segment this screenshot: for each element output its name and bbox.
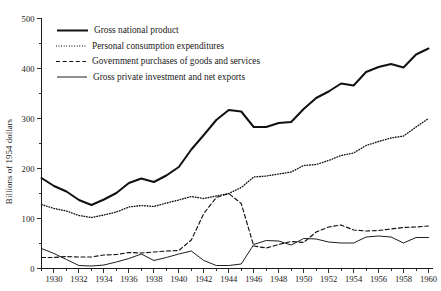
x-tick-label: 1940	[170, 274, 187, 284]
x-tick-label: 1954	[345, 274, 363, 284]
legend-label-text: Gross private investment and net exports	[93, 72, 245, 82]
legend-entry: Gross private investment and net exports	[57, 72, 245, 82]
series-line-personal-consumption-expenditures	[42, 119, 429, 218]
legend-entry: Government purchases of goods and servic…	[56, 56, 260, 66]
x-tick-label: 1946	[245, 274, 263, 284]
legend-label-text: Gross national product	[94, 25, 179, 35]
y-tick-label: 100	[22, 214, 35, 224]
x-tick-label: 1942	[195, 274, 212, 284]
chart-legend: Gross national productPersonal consumpti…	[56, 25, 260, 82]
legend-entry: Gross national product	[57, 25, 179, 35]
y-tick-label: 200	[22, 164, 35, 174]
y-tick-label: 400	[22, 64, 35, 74]
x-axis-tick-labels: 1930193219341936193819401942194419461948…	[45, 274, 437, 284]
x-tick-label: 1932	[70, 274, 87, 284]
legend-label-text: Personal consumption expenditures	[92, 41, 225, 51]
x-tick-label: 1952	[320, 274, 337, 284]
x-tick-label: 1938	[145, 274, 162, 284]
y-axis-title: Billions of 1954 dollars	[4, 118, 14, 204]
economic-indicators-line-chart: 1930193219341936193819401942194419461948…	[0, 0, 441, 291]
y-axis-title-text: Billions of 1954 dollars	[4, 118, 14, 204]
y-axis-tick-labels: 0100200300400500	[22, 14, 35, 274]
x-tick-label: 1956	[370, 274, 388, 284]
legend-label-text: Government purchases of goods and servic…	[92, 56, 260, 66]
series-line-government-purchases	[42, 194, 429, 258]
y-tick-label: 0	[30, 264, 34, 274]
x-tick-label: 1930	[45, 274, 62, 284]
y-tick-label: 300	[22, 114, 35, 124]
x-tick-label: 1960	[420, 274, 437, 284]
x-tick-label: 1944	[220, 274, 238, 284]
series-line-gross-private-investment	[42, 236, 429, 266]
x-tick-label: 1950	[295, 274, 312, 284]
x-tick-label: 1936	[120, 274, 138, 284]
legend-entry: Personal consumption expenditures	[56, 41, 225, 51]
x-tick-label: 1934	[95, 274, 113, 284]
chart-canvas: 1930193219341936193819401942194419461948…	[0, 0, 441, 291]
x-tick-label: 1958	[395, 274, 412, 284]
y-tick-label: 500	[22, 14, 35, 24]
x-tick-label: 1948	[270, 274, 287, 284]
